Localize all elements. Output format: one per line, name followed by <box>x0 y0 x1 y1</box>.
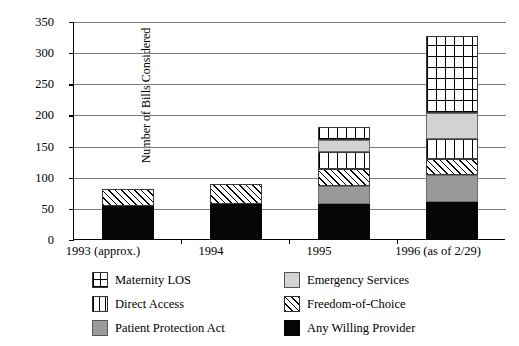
ytick-label-150: 150 <box>35 141 54 154</box>
legend-swatch-lightgray-icon <box>284 272 300 288</box>
xtick-label-1993: 1993 (approx.) <box>46 244 160 259</box>
ytick-mark-50 <box>69 209 74 210</box>
bar-1994[interactable] <box>210 184 262 239</box>
ytick-label-350: 350 <box>35 16 54 29</box>
bar-segment-maternity-los[interactable] <box>426 36 478 113</box>
legend-item-direct-access[interactable]: Direct Access <box>92 296 184 312</box>
bar-segment-any-willing-provider[interactable] <box>426 202 478 239</box>
gridline-350 <box>74 22 506 23</box>
y-axis-title: Number of Bills Considered <box>139 16 154 176</box>
ytick-mark-100 <box>69 178 74 179</box>
bar-segment-maternity-los[interactable] <box>318 127 370 140</box>
legend-label-direct-access: Direct Access <box>115 297 184 312</box>
ytick-label-100: 100 <box>35 172 54 185</box>
legend-label-freedom-of-choice: Freedom-of-Choice <box>307 297 406 312</box>
legend-swatch-darkgray-icon <box>92 320 108 336</box>
bar-segment-freedom-of-choice[interactable] <box>426 159 478 176</box>
bar-segment-freedom-of-choice[interactable] <box>102 189 154 206</box>
xtick-label-1994: 1994 <box>154 244 268 259</box>
legend-item-patient-protection-act[interactable]: Patient Protection Act <box>92 320 225 336</box>
ytick-label-50: 50 <box>42 203 55 216</box>
chart-legend: Maternity LOS Emergency Services Direct … <box>92 272 492 338</box>
ytick-label-200: 200 <box>35 109 54 122</box>
legend-item-emergency-services[interactable]: Emergency Services <box>284 272 409 288</box>
bar-1996[interactable] <box>426 36 478 239</box>
bar-segment-patient-protection-act[interactable] <box>318 186 370 204</box>
ytick-label-250: 250 <box>35 78 54 91</box>
bar-segment-direct-access[interactable] <box>318 152 370 168</box>
bar-segment-direct-access[interactable] <box>426 139 478 158</box>
ytick-mark-300 <box>69 53 74 54</box>
bar-segment-emergency-services[interactable] <box>318 140 370 152</box>
bar-1993[interactable] <box>102 189 154 239</box>
ytick-mark-350 <box>69 22 74 23</box>
legend-swatch-diagonal-hatch-icon <box>284 296 300 312</box>
bar-segment-any-willing-provider[interactable] <box>210 204 262 239</box>
legend-label-maternity-los: Maternity LOS <box>115 273 191 288</box>
legend-label-emergency-services: Emergency Services <box>307 273 409 288</box>
legend-label-any-willing-provider: Any Willing Provider <box>307 321 415 336</box>
bar-1995[interactable] <box>318 127 370 239</box>
legend-label-patient-protection-act: Patient Protection Act <box>115 321 225 336</box>
bar-segment-any-willing-provider[interactable] <box>318 204 370 239</box>
xtick-label-1996: 1996 (as of 2/29) <box>362 244 514 259</box>
ytick-mark-150 <box>69 147 74 148</box>
legend-swatch-vertical-lines-icon <box>92 296 108 312</box>
legend-item-maternity-los[interactable]: Maternity LOS <box>92 272 191 288</box>
ytick-mark-200 <box>69 115 74 116</box>
stacked-bar-chart: Number of Bills Considered 350 300 250 2… <box>0 0 519 346</box>
legend-item-freedom-of-choice[interactable]: Freedom-of-Choice <box>284 296 406 312</box>
bar-segment-freedom-of-choice[interactable] <box>210 184 262 205</box>
legend-item-any-willing-provider[interactable]: Any Willing Provider <box>284 320 415 336</box>
ytick-mark-0 <box>69 240 74 241</box>
legend-swatch-black-icon <box>284 320 300 336</box>
bar-segment-freedom-of-choice[interactable] <box>318 169 370 186</box>
ytick-mark-250 <box>69 84 74 85</box>
legend-swatch-grid-icon <box>92 272 108 288</box>
bar-segment-emergency-services[interactable] <box>426 113 478 139</box>
plot-area: Number of Bills Considered 350 300 250 2… <box>73 22 505 240</box>
bar-segment-any-willing-provider[interactable] <box>102 206 154 239</box>
bar-segment-patient-protection-act[interactable] <box>426 175 478 201</box>
ytick-label-300: 300 <box>35 47 54 60</box>
xtick-label-1995: 1995 <box>262 244 376 259</box>
